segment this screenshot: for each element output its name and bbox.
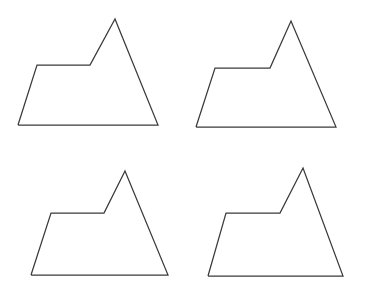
shapes-figure	[0, 0, 365, 295]
figure-background	[0, 0, 365, 295]
shape-canvas	[0, 0, 365, 295]
